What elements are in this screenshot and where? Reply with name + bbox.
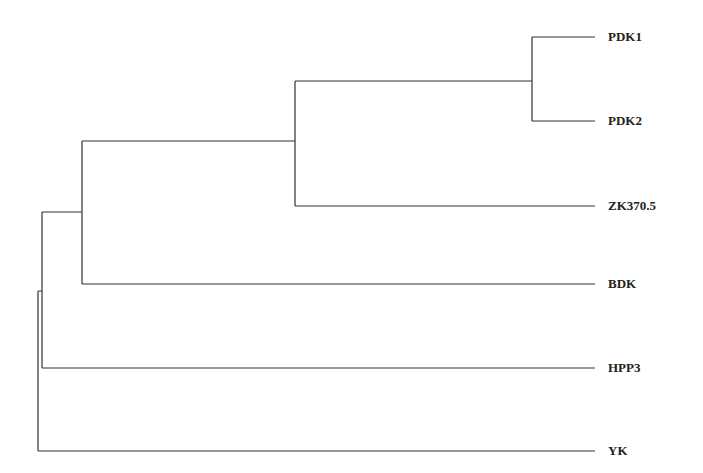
branch-pdk1-pdk2 — [532, 37, 595, 121]
leaf-label-bdk: BDK — [608, 277, 636, 291]
phylogenetic-tree — [0, 0, 703, 473]
leaf-label-pdk1: PDK1 — [608, 30, 642, 44]
leaf-label-yk: YK — [608, 444, 628, 458]
leaf-label-hpp3: HPP3 — [608, 361, 641, 375]
branch-bdk-clade — [82, 141, 595, 284]
branch-pdk-zk370 — [295, 81, 595, 206]
branch-hpp3-clade — [42, 212, 595, 368]
tree-branches — [38, 37, 595, 451]
branch-root — [38, 291, 595, 451]
leaf-label-pdk2: PDK2 — [608, 114, 642, 128]
leaf-label-zk370: ZK370.5 — [608, 199, 656, 213]
